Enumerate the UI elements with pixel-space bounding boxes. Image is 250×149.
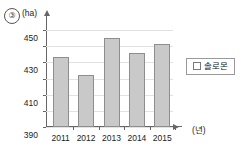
y-axis-tick-label: 410 — [24, 99, 38, 108]
x-axis-arrow-icon — [173, 124, 179, 130]
y-axis-arrow-icon — [44, 10, 50, 16]
y-axis-tick: 350 — [43, 111, 46, 112]
legend-entry-label: 솔로몬 — [204, 62, 228, 71]
x-axis-unit-label: (년) — [192, 123, 206, 135]
y-axis-tick: 430 — [43, 46, 46, 47]
y-axis-tick: 410 — [43, 62, 46, 63]
bar-2011 — [53, 57, 69, 127]
gridline — [46, 127, 173, 128]
y-axis-tick: 330 — [43, 127, 46, 128]
y-axis-unit-label: (ha) — [22, 8, 37, 18]
gridline — [46, 30, 173, 31]
x-axis-tick — [99, 127, 100, 130]
x-axis-tick-label: 2011 — [52, 134, 70, 143]
x-axis-tick-label: 2014 — [127, 134, 146, 143]
x-axis-tick — [124, 127, 125, 130]
bar-2014 — [129, 53, 145, 127]
bar-2015 — [154, 44, 170, 127]
x-axis-tick — [150, 127, 151, 130]
x-axis-tick-label: 2012 — [77, 134, 96, 143]
y-axis-tick: 370 — [43, 95, 46, 96]
square-swatch-icon — [193, 62, 201, 70]
bar-2012 — [78, 75, 94, 128]
y-axis-tick: 450 — [43, 30, 46, 31]
y-axis-tick-label: 450 — [24, 34, 38, 43]
x-axis-tick — [73, 127, 74, 130]
bar-2013 — [104, 38, 120, 127]
x-axis-tick-label: 2013 — [102, 134, 121, 143]
x-axis-tick — [175, 127, 176, 130]
x-axis-tick-label: 2015 — [153, 134, 172, 143]
item-number-badge: ③ — [4, 8, 20, 24]
chart-legend: 솔로몬 — [186, 58, 235, 75]
y-axis-tick-label: 390 — [24, 131, 38, 140]
plot-area: 330350370390410430450 201120122013201420… — [46, 22, 173, 127]
y-axis-tick: 390 — [43, 79, 46, 80]
y-axis-tick-label: 430 — [24, 66, 38, 75]
bar-chart-figure: ③ (ha) 330350370390410430450 20112012201… — [0, 0, 250, 149]
